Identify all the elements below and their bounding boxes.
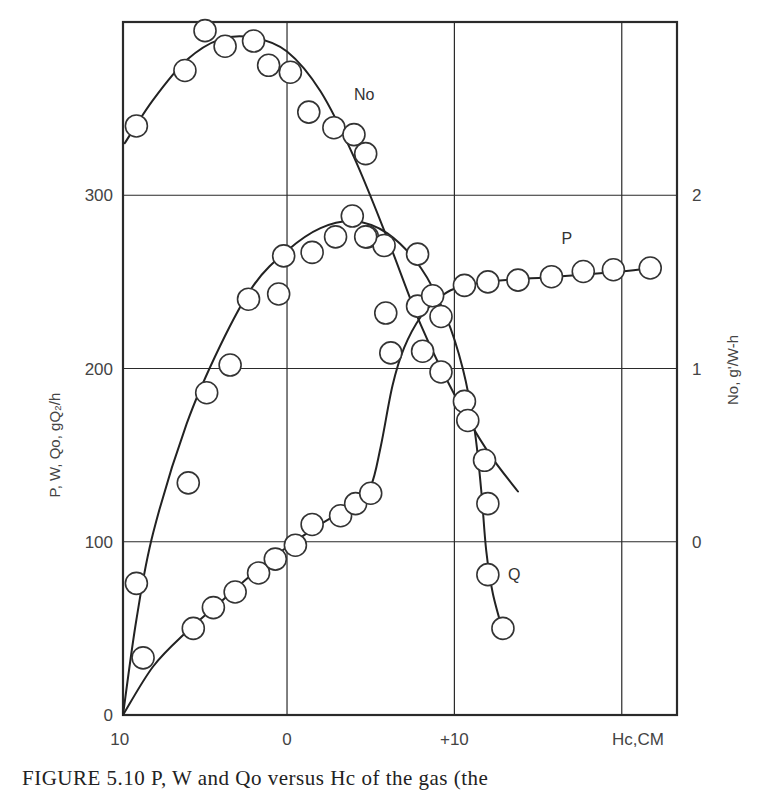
point-p <box>572 260 594 282</box>
point-p <box>264 548 286 570</box>
y-axis-label: P, W, Qo, gQ₂/h <box>46 393 63 498</box>
point-p <box>422 285 444 307</box>
point-p <box>639 257 661 279</box>
x-tick-label: +10 <box>440 730 469 749</box>
point-p <box>602 259 624 281</box>
point-p <box>380 342 402 364</box>
y-tick-label: 300 <box>85 186 113 205</box>
point-q <box>492 617 514 639</box>
curve-q <box>123 221 505 715</box>
y2-tick-label: 2 <box>692 186 701 205</box>
point-q <box>407 243 429 265</box>
point-no <box>343 124 365 146</box>
figure-caption: FIGURE 5.10 P, W and Qo versus Hc of the… <box>22 766 488 791</box>
data-points <box>125 20 661 669</box>
x-tick-label: 0 <box>282 730 291 749</box>
point-no <box>125 115 147 137</box>
point-p <box>301 513 323 535</box>
point-p <box>453 274 475 296</box>
point-no <box>355 143 377 165</box>
point-q <box>268 283 290 305</box>
point-no <box>243 30 265 52</box>
y2-tick-label: 0 <box>692 533 701 552</box>
series-labels: NoPQ <box>354 86 572 583</box>
point-q <box>219 354 241 376</box>
point-q <box>375 302 397 324</box>
point-no <box>279 61 301 83</box>
series-label-q: Q <box>508 566 520 583</box>
point-q <box>477 564 499 586</box>
point-p <box>360 482 382 504</box>
point-no <box>474 449 496 471</box>
point-q <box>477 493 499 515</box>
point-q <box>341 205 363 227</box>
curve-p <box>123 268 650 715</box>
point-q <box>355 226 377 248</box>
point-q <box>273 245 295 267</box>
y-tick-label: 0 <box>104 706 113 725</box>
point-no <box>298 101 320 123</box>
point-no <box>453 390 475 412</box>
point-no <box>412 340 434 362</box>
y2-axis-label: No, g'/W-h <box>724 335 741 405</box>
point-no <box>457 409 479 431</box>
point-no <box>323 117 345 139</box>
point-q <box>238 288 260 310</box>
point-q <box>325 226 347 248</box>
series-label-p: P <box>562 230 573 247</box>
point-no <box>430 361 452 383</box>
point-no <box>214 35 236 57</box>
point-p <box>540 266 562 288</box>
point-no <box>258 54 280 76</box>
point-no <box>174 60 196 82</box>
point-q <box>177 472 199 494</box>
point-no <box>194 20 216 42</box>
point-p <box>507 269 529 291</box>
y2-tick-label: 1 <box>692 360 701 379</box>
point-q <box>196 382 218 404</box>
point-q <box>430 306 452 328</box>
curves <box>123 36 650 715</box>
y-tick-label: 200 <box>85 360 113 379</box>
point-p <box>202 597 224 619</box>
point-p <box>284 534 306 556</box>
x-tick-label: 10 <box>110 730 129 749</box>
point-p <box>182 617 204 639</box>
x-axis-label: Hc,CM <box>612 730 664 749</box>
series-label-no: No <box>354 86 375 103</box>
point-q <box>125 572 147 594</box>
y-tick-label: 100 <box>85 533 113 552</box>
point-p <box>224 581 246 603</box>
point-p <box>477 271 499 293</box>
point-q <box>301 241 323 263</box>
point-q <box>132 647 154 669</box>
